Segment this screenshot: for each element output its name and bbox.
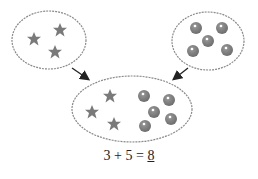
right-set bbox=[172, 12, 244, 70]
star-icon bbox=[48, 45, 62, 59]
star-icon bbox=[103, 89, 117, 103]
answer: 8 bbox=[147, 148, 154, 163]
ball-icon bbox=[202, 35, 214, 47]
ball-icon bbox=[163, 94, 175, 106]
ball-icon bbox=[148, 106, 160, 118]
plus-sign: + bbox=[114, 148, 122, 163]
arrow-icon bbox=[174, 68, 188, 79]
star-icon bbox=[27, 32, 41, 46]
combined-set bbox=[72, 76, 192, 142]
arrow-icon bbox=[72, 68, 88, 79]
ball-icon bbox=[190, 22, 202, 34]
ball-icon bbox=[221, 44, 233, 56]
addend-b: 5 bbox=[126, 148, 133, 163]
star-icon bbox=[107, 117, 121, 131]
equation: 3 + 5 = 8 bbox=[0, 148, 258, 164]
ball-icon bbox=[139, 120, 151, 132]
star-icon bbox=[85, 105, 99, 119]
ball-icon bbox=[138, 90, 150, 102]
left-set bbox=[12, 11, 86, 69]
equals-sign: = bbox=[136, 148, 144, 163]
ball-icon bbox=[216, 22, 228, 34]
ball-icon bbox=[187, 45, 199, 57]
ball-icon bbox=[165, 113, 177, 125]
star-icon bbox=[53, 23, 67, 37]
addend-a: 3 bbox=[104, 148, 111, 163]
